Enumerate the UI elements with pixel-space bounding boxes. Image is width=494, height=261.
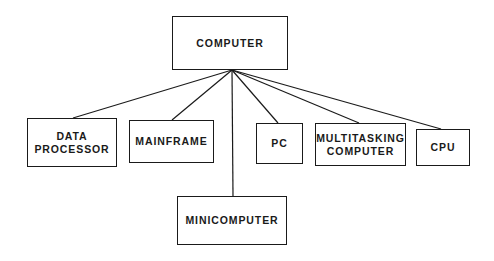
edge-computer-mainframe — [172, 70, 232, 120]
node-data-processor: DATA PROCESSOR — [27, 118, 117, 167]
node-minicomputer: MINICOMPUTER — [177, 196, 287, 245]
edge-computer-minicomputer — [232, 70, 233, 196]
edge-computer-pc — [232, 70, 278, 123]
hierarchy-diagram: COMPUTER DATA PROCESSOR MAINFRAME MINICO… — [0, 0, 494, 261]
node-mainframe: MAINFRAME — [129, 120, 214, 163]
edge-computer-cpu — [232, 70, 441, 129]
node-computer: COMPUTER — [172, 16, 288, 70]
edge-computer-multitasking-computer — [232, 70, 359, 123]
node-multitasking-computer: MULTITASKING COMPUTER — [315, 123, 406, 166]
node-pc: PC — [256, 123, 303, 164]
node-cpu: CPU — [416, 129, 470, 166]
edge-computer-data-processor — [73, 70, 232, 118]
